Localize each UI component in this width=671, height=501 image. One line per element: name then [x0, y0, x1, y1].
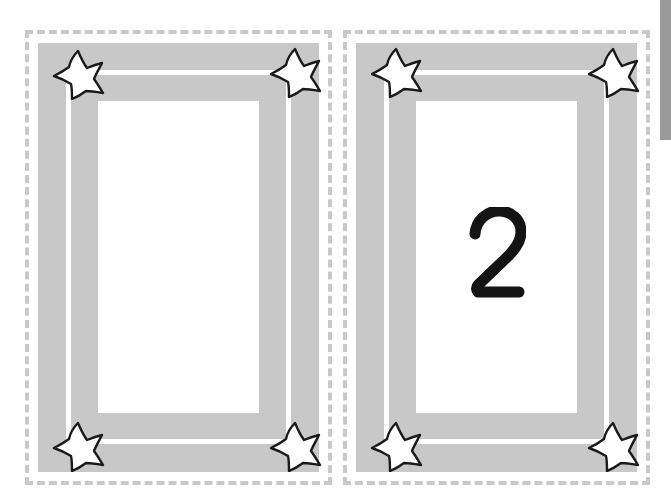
- card-writing-area[interactable]: [98, 101, 259, 413]
- numeral-two-glyph: [468, 207, 526, 307]
- number-card-1[interactable]: [25, 30, 332, 485]
- card-writing-area[interactable]: [416, 101, 577, 413]
- page-canvas: [0, 0, 671, 501]
- number-card-2[interactable]: [343, 30, 650, 485]
- vertical-scrollbar-thumb[interactable]: [660, 0, 671, 140]
- vertical-scrollbar-track[interactable]: [660, 0, 671, 501]
- card-number-value: [468, 207, 526, 307]
